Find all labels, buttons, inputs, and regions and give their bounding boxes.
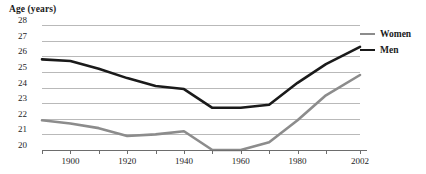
y-axis-tick-label: 23	[18, 94, 42, 103]
legend-label: Men	[380, 45, 398, 55]
x-axis-tick	[212, 150, 213, 154]
chart-axis-title: Age (years)	[9, 4, 56, 14]
y-axis-tick-label: 24	[18, 79, 42, 88]
x-axis-tick	[70, 150, 71, 154]
series-line-women	[42, 75, 360, 150]
x-axis-line	[42, 150, 367, 151]
y-axis-tick-label: 27	[18, 32, 42, 41]
x-axis-tick	[298, 150, 299, 154]
x-axis-tick-label: 1900	[61, 156, 79, 166]
x-axis-tick	[269, 150, 270, 154]
legend-item-men: Men	[360, 43, 424, 57]
x-axis-tick	[326, 150, 327, 154]
x-axis-tick-label: 1940	[175, 156, 193, 166]
chart-legend: WomenMen	[360, 27, 424, 59]
legend-label: Women	[380, 29, 411, 39]
plot-area	[42, 25, 360, 150]
chart-figure: Age (years) 282726252423222120 WomenMen …	[0, 0, 426, 174]
series-lines	[42, 25, 360, 150]
legend-swatch-men	[360, 49, 375, 51]
y-axis-tick-label: 22	[18, 110, 42, 119]
x-axis-tick	[184, 150, 185, 154]
x-axis-tick	[241, 150, 242, 154]
y-axis-tick-label: 20	[18, 141, 42, 150]
y-axis-tick-label: 26	[18, 47, 42, 56]
y-axis-tick-label: 25	[18, 63, 42, 72]
y-axis-tick-label: 21	[18, 125, 42, 134]
x-axis-tick-label: 2002	[351, 156, 369, 166]
x-axis-tick	[99, 150, 100, 154]
legend-swatch-women	[360, 33, 375, 35]
series-line-men	[42, 47, 360, 108]
y-axis-tick-label: 28	[18, 16, 42, 25]
x-axis-tick	[42, 150, 43, 154]
legend-item-women: Women	[360, 27, 424, 41]
x-axis-tick-label: 1980	[289, 156, 307, 166]
x-axis-tick	[127, 150, 128, 154]
x-axis-tick	[360, 150, 361, 154]
x-axis-tick-label: 1920	[118, 156, 136, 166]
x-axis-tick	[156, 150, 157, 154]
y-axis-tick-labels: 282726252423222120	[18, 25, 42, 150]
x-axis-tick-label: 1960	[232, 156, 250, 166]
